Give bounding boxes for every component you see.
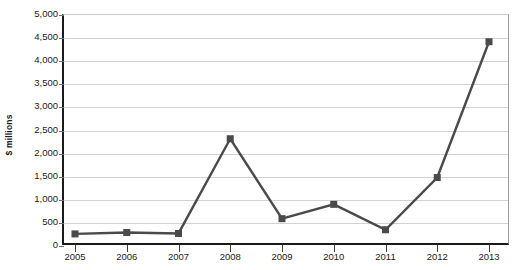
y-axis-tick-label: 1,500	[14, 171, 58, 181]
series-line	[75, 42, 489, 234]
x-axis-tick-label: 2005	[64, 252, 85, 262]
y-axis-tick-label: 2,500	[14, 125, 58, 135]
x-axis-tick-label: 2013	[478, 252, 499, 262]
y-axis-tick-label: 1,000	[14, 194, 58, 204]
y-axis-tick-label: 0	[14, 240, 58, 250]
data-point-marker	[330, 201, 337, 208]
data-point-marker	[434, 174, 441, 181]
y-axis-tick-label: 4,500	[14, 32, 58, 42]
x-axis-tick-label: 2007	[168, 252, 189, 262]
data-point-marker	[279, 215, 286, 222]
line-chart: $ millions 05001,0001,5002,0002,5003,000…	[0, 0, 521, 270]
data-point-marker	[382, 226, 389, 233]
y-axis-tick-label: 5,000	[14, 9, 58, 19]
data-point-marker	[486, 38, 493, 45]
y-axis-tick-label: 4,000	[14, 55, 58, 65]
data-point-marker	[227, 135, 234, 142]
data-point-marker	[175, 230, 182, 237]
x-axis-tick-label: 2010	[323, 252, 344, 262]
y-axis-tick-labels: 05001,0001,5002,0002,5003,0003,5004,0004…	[12, 0, 58, 270]
y-axis-tick-label: 3,500	[14, 79, 58, 89]
data-point-marker	[123, 229, 130, 236]
y-axis-tick-label: 2,000	[14, 148, 58, 158]
y-axis-tick-label: 3,000	[14, 102, 58, 112]
x-axis-tick-label: 2006	[116, 252, 137, 262]
x-axis-tick-label: 2008	[220, 252, 241, 262]
data-series-layer	[62, 14, 509, 245]
data-point-marker	[72, 230, 79, 237]
x-axis-tick-label: 2012	[427, 252, 448, 262]
y-axis-tick-label: 500	[14, 217, 58, 227]
x-axis-tick-label: 2011	[375, 252, 395, 262]
x-axis-tick-label: 2009	[271, 252, 292, 262]
